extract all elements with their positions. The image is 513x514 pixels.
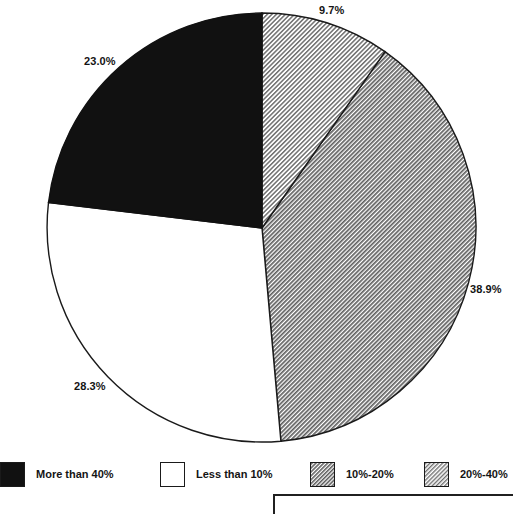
- legend-label-10-20: 10%-20%: [346, 469, 394, 480]
- legend-label-less-than-10: Less than 10%: [196, 469, 272, 480]
- chart-legend: More than 40% Less than 10%: [0, 459, 509, 493]
- legend-label-more-than-40: More than 40%: [36, 469, 114, 480]
- legend-swatch-hatch-light-icon: [424, 462, 449, 487]
- pie-data-label-38-9: 38.9%: [470, 284, 502, 295]
- legend-swatch-hatch-dense-icon: [310, 462, 335, 487]
- pie-slice-28-3[interactable]: [47, 203, 281, 443]
- legend-item-more-than-40[interactable]: More than 40%: [0, 459, 114, 489]
- pie-slice-23-0[interactable]: [49, 13, 263, 228]
- legend-item-10-20[interactable]: 10%-20%: [310, 459, 394, 489]
- legend-swatch-solid-black-icon: [0, 462, 25, 487]
- bottom-frame-fragment: [273, 494, 513, 514]
- pie-data-label-9-7: 9.7%: [319, 5, 344, 16]
- legend-swatch-solid-white-icon: [160, 462, 185, 487]
- legend-item-20-40[interactable]: 20%-40%: [424, 459, 508, 489]
- pie-plot-area: 9.7% 38.9% 28.3% 23.0%: [0, 0, 509, 455]
- pie-data-label-28-3: 28.3%: [74, 381, 106, 392]
- pie-data-label-23-0: 23.0%: [84, 56, 116, 67]
- legend-label-20-40: 20%-40%: [460, 469, 508, 480]
- legend-item-less-than-10[interactable]: Less than 10%: [160, 459, 272, 489]
